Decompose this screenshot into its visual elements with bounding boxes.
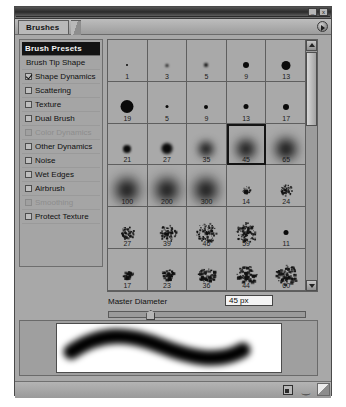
brush-size-label: 11 xyxy=(266,239,306,248)
brush-preset-cell[interactable]: 65 xyxy=(266,124,306,166)
title-bar-grip xyxy=(16,16,330,17)
brush-preset-cell[interactable]: 27 xyxy=(148,124,188,166)
checkbox-dual-brush[interactable] xyxy=(25,115,32,122)
brush-preset-cell[interactable]: 11 xyxy=(266,207,306,249)
brush-preset-grid[interactable]: 1359131959131721273545651002003001424273… xyxy=(108,40,306,291)
brush-tip-icon xyxy=(165,64,168,67)
master-diameter-input[interactable]: 45 px xyxy=(225,295,273,306)
resize-grip[interactable] xyxy=(317,383,330,396)
brush-preset-cell[interactable]: 9 xyxy=(187,82,227,124)
brush-size-label: 3 xyxy=(148,72,187,81)
tab-strip: Brushes xyxy=(15,19,331,35)
tab-brushes[interactable]: Brushes xyxy=(18,20,69,34)
brush-preset-cell[interactable]: 39 xyxy=(148,207,188,249)
scroll-down-arrow-icon[interactable] xyxy=(306,280,317,291)
brush-preset-cell[interactable]: 14 xyxy=(227,165,267,207)
brush-grid-scrollbar[interactable] xyxy=(305,40,317,291)
brush-preset-cell[interactable]: 60 xyxy=(266,249,306,291)
brush-preset-cell[interactable]: 300 xyxy=(187,165,227,207)
brush-preset-cell[interactable]: 19 xyxy=(108,82,148,124)
checkbox-texture[interactable] xyxy=(25,101,32,108)
checkbox-scattering[interactable] xyxy=(25,87,32,94)
brush-size-label: 23 xyxy=(148,281,187,290)
master-diameter-slider[interactable] xyxy=(108,311,306,318)
brush-size-label: 39 xyxy=(148,239,187,248)
brush-preset-cell[interactable]: 13 xyxy=(227,82,267,124)
sidebar-item-dual-brush[interactable]: Dual Brush xyxy=(22,112,100,126)
brush-stroke-preview-panel xyxy=(19,320,318,376)
master-diameter-slider-thumb[interactable] xyxy=(146,310,155,320)
sidebar-item-label: Brush Tip Shape xyxy=(26,58,85,67)
brush-preset-cell[interactable]: 5 xyxy=(148,82,188,124)
brush-size-label: 200 xyxy=(148,197,187,206)
brush-preset-cell[interactable]: 200 xyxy=(148,165,188,207)
brush-options-list: Brush Presets Brush Tip ShapeShape Dynam… xyxy=(19,39,103,267)
brush-preset-cell[interactable]: 23 xyxy=(148,249,188,291)
brush-preset-cell[interactable]: 1 xyxy=(108,40,148,82)
brush-size-label: 9 xyxy=(227,72,266,81)
brush-tip-icon xyxy=(283,104,289,110)
brush-size-label: 45 xyxy=(227,155,266,164)
brush-preset-cell[interactable]: 21 xyxy=(108,124,148,166)
brush-preset-cell[interactable]: 59 xyxy=(227,207,267,249)
palette-menu-button[interactable] xyxy=(317,21,328,32)
checkbox-other-dynamics[interactable] xyxy=(25,143,32,150)
brush-preset-cell[interactable]: 13 xyxy=(266,40,306,82)
sidebar-item-shape-dynamics[interactable]: Shape Dynamics xyxy=(22,70,100,84)
checkbox-noise[interactable] xyxy=(25,157,32,164)
sidebar-item-label: Color Dynamics xyxy=(35,128,91,137)
brush-preset-cell[interactable]: 45 xyxy=(227,124,267,166)
brush-size-label: 300 xyxy=(187,197,226,206)
sidebar-item-airbrush[interactable]: Airbrush xyxy=(22,182,100,196)
sidebar-item-label: Wet Edges xyxy=(35,170,74,179)
brush-tip-icon xyxy=(199,142,213,156)
sidebar-item-protect-texture[interactable]: Protect Texture xyxy=(22,210,100,224)
sidebar-item-brush-tip-shape[interactable]: Brush Tip Shape xyxy=(22,56,100,70)
sidebar-item-noise[interactable]: Noise xyxy=(22,154,100,168)
stroke-path-icon xyxy=(57,324,281,372)
sidebar-item-other-dynamics[interactable]: Other Dynamics xyxy=(22,140,100,154)
checkbox-airbrush[interactable] xyxy=(25,185,32,192)
brush-preset-cell[interactable]: 46 xyxy=(187,207,227,249)
sidebar-item-smoothing: Smoothing xyxy=(22,196,100,210)
brush-size-label: 9 xyxy=(187,114,226,123)
scrollbar-thumb[interactable] xyxy=(306,52,317,126)
minimize-button[interactable]: _ xyxy=(308,8,317,16)
brush-preset-cell[interactable]: 17 xyxy=(266,82,306,124)
brush-size-label: 59 xyxy=(227,239,266,248)
brush-size-label: 65 xyxy=(266,155,306,164)
brush-preset-cell[interactable]: 17 xyxy=(108,249,148,291)
brush-preset-cell[interactable]: 36 xyxy=(187,249,227,291)
brush-preset-cell[interactable]: 35 xyxy=(187,124,227,166)
brush-preset-cell[interactable]: 27 xyxy=(108,207,148,249)
brush-preset-grid-container: 1359131959131721273545651002003001424273… xyxy=(107,39,318,292)
brush-size-label: 13 xyxy=(227,114,266,123)
checkbox-shape-dynamics[interactable] xyxy=(25,73,32,80)
brush-size-label: 46 xyxy=(187,239,226,248)
brush-preset-cell[interactable]: 44 xyxy=(227,249,267,291)
brush-size-label: 27 xyxy=(148,155,187,164)
sidebar-item-brush-presets[interactable]: Brush Presets xyxy=(22,42,100,56)
brush-preset-cell[interactable]: 9 xyxy=(227,40,267,82)
brush-size-label: 1 xyxy=(108,72,147,81)
checkbox-wet-edges[interactable] xyxy=(25,171,32,178)
sidebar-item-wet-edges[interactable]: Wet Edges xyxy=(22,168,100,182)
sidebar-item-label: Shape Dynamics xyxy=(35,72,95,81)
checkbox-protect-texture[interactable] xyxy=(25,213,32,220)
close-button[interactable]: x xyxy=(319,8,328,16)
scroll-up-arrow-icon[interactable] xyxy=(306,40,317,51)
new-brush-icon[interactable] xyxy=(283,385,293,395)
brush-tip-icon xyxy=(244,104,249,109)
brush-preset-cell[interactable]: 100 xyxy=(108,165,148,207)
sidebar-item-label: Dual Brush xyxy=(35,114,75,123)
brush-preset-cell[interactable]: 24 xyxy=(266,165,306,207)
title-bar[interactable]: _ x xyxy=(15,7,331,19)
checkbox-smoothing xyxy=(25,199,32,206)
sidebar-item-texture[interactable]: Texture xyxy=(22,98,100,112)
brush-preset-cell[interactable]: 5 xyxy=(187,40,227,82)
trash-icon[interactable]: ⏝ xyxy=(301,385,311,395)
brush-preset-cell[interactable]: 3 xyxy=(148,40,188,82)
brush-size-label: 44 xyxy=(227,281,266,290)
sidebar-item-label: Airbrush xyxy=(35,184,65,193)
sidebar-item-scattering[interactable]: Scattering xyxy=(22,84,100,98)
